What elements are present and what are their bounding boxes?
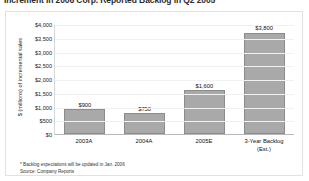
y-axis-tick: $3,000 xyxy=(35,50,52,56)
y-axis-tick: $2,000 xyxy=(35,77,52,83)
gridline xyxy=(55,39,294,40)
gridline xyxy=(55,53,294,54)
y-axis-tick: $4,000 xyxy=(35,22,52,28)
bar-value-label: $1,600 xyxy=(196,83,214,89)
x-axis-tick: 3-Year Backlog(Est.) xyxy=(234,137,294,153)
gridline xyxy=(55,94,294,95)
bar[interactable] xyxy=(124,113,165,134)
x-axis-tick-line: 3-Year Backlog xyxy=(234,137,294,145)
y-axis-tick-labels: $4,000$3,500$3,000$2,500$2,000$1,500$1,0… xyxy=(18,25,52,135)
gridline xyxy=(55,80,294,81)
x-axis-tick: 2005E xyxy=(174,137,234,153)
footnotes: * Backlog expectations will be updated i… xyxy=(20,162,125,175)
x-axis-tick-line: 2004A xyxy=(114,137,174,145)
x-axis-tick: 2003A xyxy=(54,137,114,153)
x-axis-tick: 2004A xyxy=(114,137,174,153)
footnote-source: Source: Company Reports xyxy=(20,169,125,176)
gridline xyxy=(55,108,294,109)
document-title: Increment in 2006 Corp. Reported Backlog… xyxy=(4,0,304,5)
bar[interactable] xyxy=(184,90,225,134)
footnote-backlog: * Backlog expectations will be updated i… xyxy=(20,162,125,169)
y-axis-tick: $2,500 xyxy=(35,63,52,69)
y-axis-tick: $3,500 xyxy=(35,36,52,42)
bar[interactable] xyxy=(244,33,285,135)
gridline xyxy=(55,66,294,67)
x-axis-tick-labels: 2003A2004A2005E3-Year Backlog(Est.) xyxy=(54,137,294,153)
y-axis-tick: $1,500 xyxy=(35,91,52,97)
bar-chart: $ (millions) of incremental sales $4,000… xyxy=(5,11,303,176)
x-axis-tick-line: 2003A xyxy=(54,137,114,145)
plot-area: $900$750$1,600$3,800 xyxy=(54,25,294,135)
y-axis-tick: $1,000 xyxy=(35,105,52,111)
x-axis-tick-line: 2005E xyxy=(174,137,234,145)
gridline xyxy=(55,25,294,26)
y-axis-tick: $0 xyxy=(46,132,52,138)
y-axis-tick: $500 xyxy=(40,118,52,124)
x-axis-tick-line: (Est.) xyxy=(234,145,294,153)
gridline xyxy=(55,121,294,122)
